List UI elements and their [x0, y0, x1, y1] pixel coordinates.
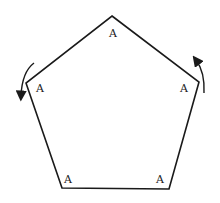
pentagon-diagram: A A A A A	[0, 0, 220, 203]
vertex-label-top: A	[108, 27, 118, 40]
vertex-label-bottom-left: A	[63, 173, 73, 186]
vertex-label-left: A	[35, 82, 45, 95]
vertex-label-bottom-right: A	[155, 173, 165, 186]
rotation-arrow-left-icon	[21, 63, 34, 96]
pentagon-outline	[26, 16, 199, 189]
vertex-label-right: A	[179, 82, 189, 95]
